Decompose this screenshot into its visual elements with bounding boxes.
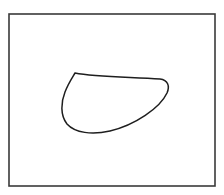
diagram-canvas [0, 0, 224, 195]
background [0, 0, 224, 195]
